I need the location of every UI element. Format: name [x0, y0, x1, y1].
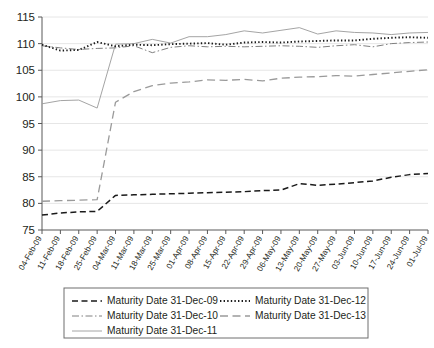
y-axis-label: 105	[16, 64, 35, 76]
legend-label-0[interactable]: Maturity Date 31-Dec-09	[107, 295, 218, 306]
legend-label-3[interactable]: Maturity Date 31-Dec-12	[255, 295, 366, 306]
line-chart: 758085909510010511011504-Feb-0911-Feb-09…	[0, 0, 434, 348]
chart-container: 758085909510010511011504-Feb-0911-Feb-09…	[0, 0, 434, 348]
y-axis-label: 85	[22, 171, 35, 183]
y-axis-label: 95	[22, 118, 35, 130]
y-axis-label: 115	[17, 11, 35, 23]
y-axis-label: 80	[22, 197, 35, 209]
y-axis-label: 100	[16, 91, 35, 103]
legend-label-2[interactable]: Maturity Date 31-Dec-11	[107, 325, 218, 336]
y-axis-label: 110	[17, 38, 35, 50]
legend-label-4[interactable]: Maturity Date 31-Dec-13	[255, 310, 366, 321]
y-axis-label: 90	[22, 144, 35, 156]
series-line-0	[42, 174, 428, 216]
y-axis-label: 75	[22, 224, 35, 236]
legend-label-1[interactable]: Maturity Date 31-Dec-10	[107, 310, 218, 321]
